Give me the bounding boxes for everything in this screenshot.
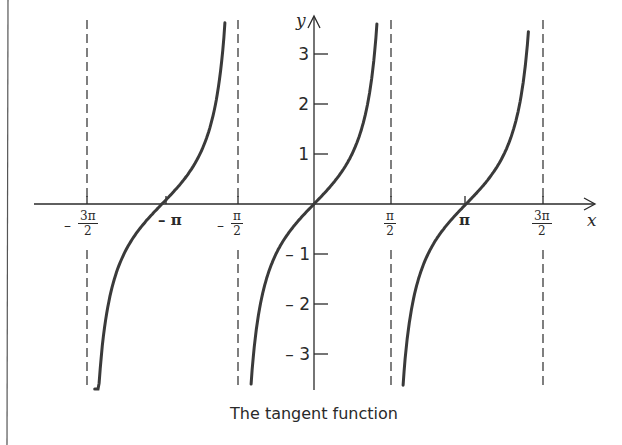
x-axis-label: x <box>587 212 597 229</box>
y-axis <box>308 16 328 390</box>
x-tick-label-pi-2: π 2 <box>384 210 396 237</box>
y-tick-label-neg-1: – 1 <box>274 246 310 263</box>
y-tick-label-neg-3: – 3 <box>274 346 310 363</box>
tangent-branch-1 <box>95 23 225 389</box>
y-tick-label-1: 1 <box>279 146 309 163</box>
x-tick-label-neg-pi-2: – π 2 <box>231 210 243 237</box>
x-tick-label-neg-3pi-2: – 3π 2 <box>78 210 98 237</box>
x-tick-label-pi: π <box>459 213 470 228</box>
x-tick-label-neg-pi: – π <box>158 213 182 228</box>
tangent-branch-3 <box>403 32 528 386</box>
y-tick-label-neg-2: – 2 <box>274 296 310 313</box>
y-tick-label-3: 3 <box>279 46 309 63</box>
y-axis-label: y <box>296 12 306 29</box>
tangent-curves <box>95 23 529 389</box>
x-tick-label-3pi-2: 3π 2 <box>532 210 552 237</box>
chart-caption: The tangent function <box>0 404 622 423</box>
page-border <box>7 0 8 445</box>
y-tick-label-2: 2 <box>279 96 309 113</box>
